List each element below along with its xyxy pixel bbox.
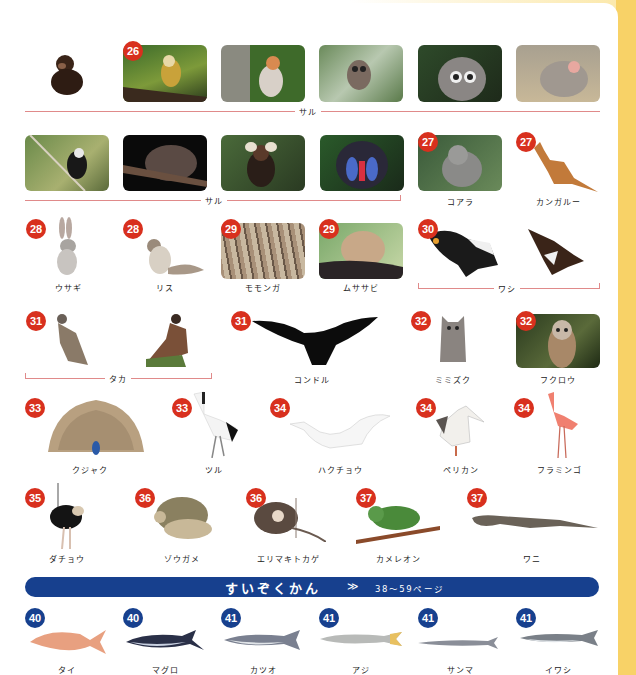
group-label: サル: [295, 106, 321, 117]
label-squirrel: リス: [123, 282, 207, 293]
page-badge: 40: [25, 608, 45, 628]
condor-image: [252, 313, 378, 367]
tuna-image: [126, 628, 206, 652]
side-strip: [616, 0, 636, 675]
crane-image: [190, 390, 240, 458]
label-rabbit: ウサギ: [26, 282, 110, 293]
label-frilled-lizard: エリマキトカゲ: [246, 553, 330, 564]
section-title: すいぞくかん: [225, 578, 321, 597]
page-badge: 33: [172, 398, 192, 418]
label-chameleon: カメレオン: [356, 553, 440, 564]
page-badge: 37: [467, 488, 487, 508]
group-bracket-monkey-2: サル: [25, 196, 401, 204]
hawk-1-image: [52, 313, 92, 367]
bonito-image: [224, 630, 302, 650]
group-label: ワシ: [494, 283, 520, 294]
page-badge: 40: [123, 608, 143, 628]
label-pelican: ペリカン: [419, 464, 503, 475]
mandrill-image: [320, 135, 404, 191]
page-badge: 41: [319, 608, 339, 628]
marmoset-image: [221, 135, 305, 191]
label-condor: コンドル: [270, 374, 354, 385]
group-label: タカ: [105, 373, 131, 384]
page-badge: 28: [123, 219, 143, 239]
label-peacock: クジャク: [48, 464, 132, 475]
page-badge: 31: [231, 311, 251, 331]
label-musasabi: ムササビ: [319, 282, 403, 293]
page-badge: 36: [246, 488, 266, 508]
ring-tailed-lemur-image: [418, 45, 502, 102]
page-badge: 34: [514, 398, 534, 418]
label-sardine: イワシ: [516, 664, 600, 675]
swan-image: [290, 410, 390, 450]
label-tortoise: ゾウガメ: [140, 553, 224, 564]
kangaroo-image: [524, 138, 602, 194]
chimpanzee-image: [40, 50, 90, 98]
horse-mackerel-image: [320, 630, 404, 648]
group-bracket-hawk: タカ: [25, 374, 212, 382]
rabbit-image: [52, 216, 82, 276]
flamingo-image: [542, 390, 582, 458]
horned-owl-image: [438, 314, 468, 368]
hawk-2-image: [142, 313, 196, 367]
double-chevron-icon: ≫: [347, 580, 359, 593]
page-badge: 34: [416, 398, 436, 418]
page-badge: 33: [25, 398, 45, 418]
crocodile-image: [470, 512, 600, 536]
label-crocodile: ワニ: [490, 553, 574, 564]
eagle-2-image: [524, 225, 588, 277]
proboscis-monkey-image: [221, 45, 305, 102]
label-owl: フクロウ: [516, 374, 600, 385]
page-badge: 27: [516, 132, 536, 152]
page-badge: 37: [356, 488, 376, 508]
group-bracket-monkey: サル: [25, 107, 600, 115]
eagle-1-image: [428, 225, 506, 279]
page-badge: 29: [221, 219, 241, 239]
baboon-image: [516, 45, 600, 102]
group-bracket-eagle: ワシ: [418, 284, 600, 292]
page-badge: 28: [26, 219, 46, 239]
page-badge: 34: [270, 398, 290, 418]
page-badge: 31: [26, 311, 46, 331]
label-bonito: カツオ: [221, 664, 305, 675]
page-badge: 32: [516, 311, 536, 331]
page-badge: 41: [516, 608, 536, 628]
label-momonga: モモンガ: [221, 282, 305, 293]
page-badge: 27: [418, 132, 438, 152]
label-ostrich: ダチョウ: [25, 553, 109, 564]
sea-bream-image: [28, 626, 108, 656]
label-sea-bream: タイ: [25, 664, 109, 675]
label-flamingo: フラミンゴ: [517, 464, 601, 475]
page-badge: 30: [418, 219, 438, 239]
label-saury: サンマ: [418, 664, 502, 675]
label-crane: ツル: [172, 464, 256, 475]
gibbon-image: [25, 135, 109, 191]
ostrich-image: [48, 483, 88, 549]
section-banner-aquarium[interactable]: すいぞくかん ≫ 38〜59ページ: [25, 577, 599, 597]
label-tuna: マグロ: [123, 664, 207, 675]
page-badge: 35: [25, 488, 45, 508]
page-badge: 36: [135, 488, 155, 508]
label-koala: コアラ: [418, 196, 502, 207]
label-horned-owl: ミミズク: [411, 374, 495, 385]
page-range: 38〜59ページ: [375, 582, 445, 594]
group-label: サル: [201, 195, 227, 206]
label-swan: ハクチョウ: [298, 464, 382, 475]
page-badge: 41: [221, 608, 241, 628]
tortoise-image: [148, 495, 214, 543]
page-badge: 26: [123, 41, 143, 61]
page-badge: 29: [319, 219, 339, 239]
pelican-image: [432, 402, 486, 456]
page-badge: 32: [411, 311, 431, 331]
tarsier-image: [319, 45, 403, 102]
page-badge: 41: [418, 608, 438, 628]
sardine-image: [520, 630, 600, 646]
label-kangaroo: カンガルー: [516, 196, 600, 207]
slow-loris-image: [123, 135, 207, 191]
peacock-image: [44, 396, 148, 458]
squirrel-image: [140, 232, 206, 276]
saury-image: [418, 634, 500, 646]
label-horse-mackerel: アジ: [319, 664, 403, 675]
